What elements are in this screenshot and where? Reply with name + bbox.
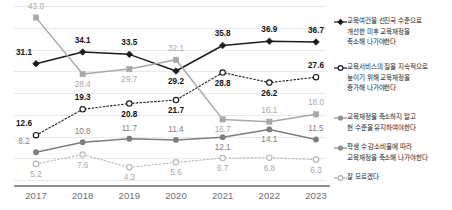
x-axis-line [14,185,330,187]
legend-label: 교육여건을 선진국 수준으로 개선한 미후 교육재정을 축소해 나가야한다 [347,16,452,48]
data-point-label: 28.8 [215,79,231,87]
data-point-marker [127,66,132,71]
data-point-label: 5.6 [170,169,181,177]
data-point-marker [267,119,272,124]
data-point-label: 19.3 [75,94,91,102]
data-point-label: 6.3 [310,167,321,175]
data-point-marker [33,149,39,155]
data-point-marker [220,134,226,140]
data-point-marker [266,127,272,133]
data-point-marker [173,97,178,102]
legend-item-5[interactable]: 잘 모르겠다 [334,172,452,183]
legend-marker-open-circle-icon [334,63,347,73]
x-axis-tick-2019: 2019 [119,190,141,201]
legend-marker-open-circle-icon [334,173,347,183]
chart-container: 31.134.133.529.235.836.936.712.619.320.8… [0,0,452,210]
legend-marker-filled-circle-icon [334,143,347,153]
data-point-label: 6.8 [264,165,275,173]
data-point-label: 11.7 [122,125,137,133]
data-point-label: 27.6 [308,62,324,70]
data-point-marker [33,15,38,20]
data-point-label: 20.8 [121,110,137,118]
data-point-marker [267,80,272,85]
data-point-label: 16.1 [261,107,277,115]
data-point-label: 7.6 [77,161,88,169]
legend-label: 교육재정을 축소하지 말고 현 수준을 유지하여야한다 [347,112,452,133]
data-point-marker [80,152,85,157]
data-point-marker [219,42,226,49]
data-point-marker [313,137,319,143]
legend-marker-filled-diamond-icon [334,17,347,27]
data-point-label: 29.2 [168,78,184,86]
data-point-marker [126,136,132,142]
data-point-label: 8.2 [18,138,29,146]
data-point-label: 21.7 [168,107,184,115]
legend-item-3[interactable]: 교육재정을 축소하지 말고 현 수준을 유지하여야한다 [334,112,452,133]
legend-marker-filled-circle-icon [334,113,347,123]
x-axis-tick-2018: 2018 [72,190,94,201]
data-point-label: 32.1 [168,45,184,53]
data-point-marker [266,38,273,45]
data-point-label: 14.1 [261,136,277,144]
data-point-marker [267,155,272,160]
data-point-label: 36.7 [308,27,324,35]
data-point-marker [173,137,179,143]
data-point-label: 29.7 [121,76,137,84]
data-point-marker [173,68,180,75]
data-point-marker [220,70,225,75]
data-point-marker [313,39,320,46]
x-axis-tick-2021: 2021 [212,190,234,201]
plot-area: 31.134.133.529.235.836.936.712.619.320.8… [14,6,326,184]
data-point-marker [127,165,132,170]
chart-legend: 교육여건을 선진국 수준으로 개선한 미후 교육재정을 축소해 나가야한다교육서… [334,6,452,186]
data-point-label: 12.6 [16,120,32,128]
data-point-marker [33,133,38,138]
data-point-label: 28.4 [75,81,91,89]
legend-label: 교육서비스의 질을 지속적으로 높이기 위해 교육재정을 증가해 나가야한다 [347,62,452,94]
data-point-marker [313,112,318,117]
data-point-label: 33.5 [121,39,137,47]
data-point-marker [79,49,86,56]
data-point-label: 16.7 [215,126,231,134]
legend-item-4[interactable]: 학생 수 감소비율에 따라 교육재정을 축소해 나가야한다 [334,142,452,163]
data-point-label: 10.8 [75,128,91,136]
data-point-marker [313,75,318,80]
data-point-marker [220,155,225,160]
data-point-marker [126,51,133,58]
data-point-label: 11.5 [308,124,323,132]
data-point-label: 6.7 [217,165,228,173]
x-axis-tick-labels: 2017201820192020202120222023 [14,190,326,208]
data-point-marker [33,161,38,166]
data-point-marker [313,157,318,162]
data-point-label: 36.9 [261,26,277,34]
data-point-label: 31.1 [16,49,32,57]
legend-item-2[interactable]: 교육서비스의 질을 지속적으로 높이기 위해 교육재정을 증가해 나가야한다 [334,62,452,94]
series-lines-group [14,6,326,184]
data-point-marker [173,57,178,62]
data-point-marker [33,60,40,67]
legend-label: 잘 모르겠다 [347,172,452,183]
data-point-marker [127,101,132,106]
data-point-label: 18.0 [308,99,324,107]
data-point-label: 43.0 [28,2,44,10]
data-point-label: 35.8 [215,30,231,38]
data-point-marker [173,160,178,165]
data-point-label: 11.4 [168,126,183,134]
x-axis-tick-2020: 2020 [165,190,187,201]
legend-item-1[interactable]: 교육여건을 선진국 수준으로 개선한 미후 교육재정을 축소해 나가야한다 [334,16,452,48]
x-axis-tick-2022: 2022 [259,190,281,201]
data-point-label: 12.1 [215,144,231,152]
data-point-label: 26.2 [261,90,277,98]
x-axis-tick-2023: 2023 [305,190,327,201]
data-point-marker [220,117,225,122]
data-point-label: 34.1 [75,37,91,45]
data-point-label: 4.3 [124,174,135,182]
data-point-label: 5.2 [30,171,41,179]
legend-label: 학생 수 감소비율에 따라 교육재정을 축소해 나가야한다 [347,142,452,163]
data-point-marker [80,139,86,145]
data-point-marker [80,71,85,76]
data-point-marker [80,107,85,112]
x-axis-tick-2017: 2017 [25,190,47,201]
